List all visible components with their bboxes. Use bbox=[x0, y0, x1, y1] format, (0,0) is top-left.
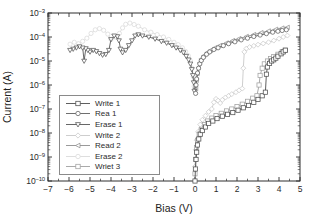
y-tick-label: 10−4 bbox=[29, 32, 45, 43]
series-line-write1 bbox=[195, 50, 285, 181]
legend-label: Erase 2 bbox=[95, 152, 123, 161]
square-marker-icon bbox=[65, 162, 91, 171]
x-axis-title: Bias (V) bbox=[155, 202, 192, 214]
square-marker-icon bbox=[65, 99, 91, 108]
legend-label: Write 2 bbox=[95, 131, 120, 140]
legend-item-erase2: Erase 2 bbox=[65, 151, 155, 162]
legend-item-wriet3: Wriet 3 bbox=[65, 162, 155, 173]
x-tick-label: −1 bbox=[169, 184, 179, 194]
legend-label: Erase 1 bbox=[95, 120, 123, 129]
y-axis-title: Current (A) bbox=[1, 55, 13, 139]
legend-item-write2: Write 2 bbox=[65, 130, 155, 141]
legend-label: Write 1 bbox=[95, 99, 120, 108]
legend-label: Read 2 bbox=[95, 141, 121, 150]
circle-marker-icon bbox=[65, 152, 91, 161]
legend-item-erase1: Erase 1 bbox=[65, 119, 155, 130]
y-tick-label: 10−6 bbox=[29, 80, 45, 91]
legend-label: Wriet 3 bbox=[95, 162, 120, 171]
y-tick-label: 10−7 bbox=[29, 104, 45, 115]
x-tick-label: −6 bbox=[64, 184, 74, 194]
series-line-erase2 bbox=[70, 23, 194, 86]
x-tick-label: 0 bbox=[193, 184, 198, 194]
x-tick-label: −5 bbox=[85, 184, 95, 194]
y-tick-label: 10−5 bbox=[29, 56, 45, 67]
legend-box: Write 1Rea 1Erase 1Write 2Read 2Erase 2W… bbox=[59, 95, 160, 175]
triangle-down-marker-icon bbox=[65, 120, 91, 129]
legend-item-read2: Read 2 bbox=[65, 140, 155, 151]
x-tick-label: 3 bbox=[256, 184, 261, 194]
circle-marker-icon bbox=[65, 109, 91, 118]
x-tick-label: −2 bbox=[148, 184, 158, 194]
y-tick-label: 10−9 bbox=[29, 152, 45, 163]
x-tick-label: 1 bbox=[214, 184, 219, 194]
y-tick-label: 10−3 bbox=[29, 8, 45, 19]
legend-label: Rea 1 bbox=[95, 109, 116, 118]
x-tick-label: 2 bbox=[235, 184, 240, 194]
series-markers-erase2 bbox=[68, 21, 196, 88]
x-tick-label: −4 bbox=[106, 184, 116, 194]
iv-characteristics-chart: −7−6−5−4−3−2−101234510−310−410−510−610−7… bbox=[0, 0, 317, 224]
series-markers-erase1 bbox=[68, 33, 197, 94]
diamond-marker-icon bbox=[65, 131, 91, 140]
legend-item-write1: Write 1 bbox=[65, 98, 155, 109]
x-tick-label: 4 bbox=[277, 184, 282, 194]
x-tick-label: −3 bbox=[127, 184, 137, 194]
y-tick-label: 10−10 bbox=[26, 176, 45, 187]
legend-item-rea1: Rea 1 bbox=[65, 109, 155, 120]
x-tick-label: 5 bbox=[298, 184, 303, 194]
y-tick-label: 10−8 bbox=[29, 128, 45, 139]
triangle-left-marker-icon bbox=[65, 141, 91, 150]
